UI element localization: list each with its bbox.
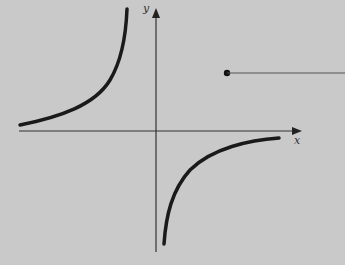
x-axis xyxy=(19,127,302,135)
callout-pointer xyxy=(224,70,345,76)
hyperbola-diagram: y x xyxy=(0,0,345,265)
graph-svg xyxy=(0,0,345,265)
x-axis-label: x xyxy=(294,134,300,147)
y-axis-label: y xyxy=(143,2,149,15)
curve-upper-left-branch xyxy=(20,9,127,125)
curve-lower-right-branch xyxy=(164,138,279,244)
y-axis xyxy=(152,8,160,252)
